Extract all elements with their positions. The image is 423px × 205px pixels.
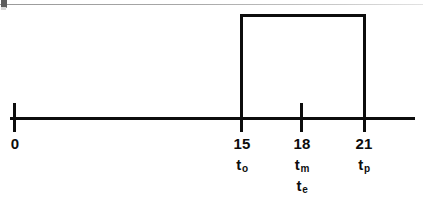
figure-canvas: 0 15 to 18 tm te 21 tp	[0, 0, 423, 205]
optimistic-label-group: 15 to	[228, 136, 256, 172]
most-likely-symbol1-base: t	[295, 156, 300, 173]
time-axis-line	[10, 117, 415, 120]
pessimistic-value-label: 21	[355, 136, 372, 151]
tick-mark-most-likely	[300, 103, 303, 132]
most-likely-symbol1-subscript: m	[301, 163, 310, 174]
most-likely-symbol2-subscript: e	[302, 184, 308, 195]
pulse-left-edge	[240, 14, 243, 119]
pessimistic-symbol-base: t	[358, 156, 363, 173]
scan-speck-tail-artifact	[1, 7, 6, 10]
pessimistic-symbol-label: tp	[358, 157, 370, 172]
scan-top-rule	[0, 4, 423, 5]
origin-label-group: 0	[4, 136, 26, 151]
pessimistic-symbol-subscript: p	[364, 163, 370, 174]
optimistic-value-label: 15	[233, 136, 250, 151]
origin-value-label: 0	[11, 136, 20, 151]
tick-mark-optimistic	[240, 118, 243, 132]
tick-mark-pessimistic	[363, 118, 366, 132]
optimistic-symbol-label: to	[236, 157, 248, 172]
optimistic-symbol-subscript: o	[242, 163, 248, 174]
optimistic-symbol-base: t	[236, 156, 241, 173]
most-likely-symbol-label-te: te	[297, 178, 308, 193]
pessimistic-label-group: 21 tp	[350, 136, 378, 172]
most-likely-symbol-label-tm: tm	[295, 157, 309, 172]
most-likely-value-label: 18	[293, 136, 310, 151]
most-likely-symbol2-base: t	[297, 177, 302, 194]
most-likely-label-group: 18 tm te	[287, 136, 317, 193]
tick-mark-origin	[13, 103, 16, 132]
pulse-right-edge	[363, 14, 366, 119]
pulse-top-edge	[240, 14, 366, 17]
